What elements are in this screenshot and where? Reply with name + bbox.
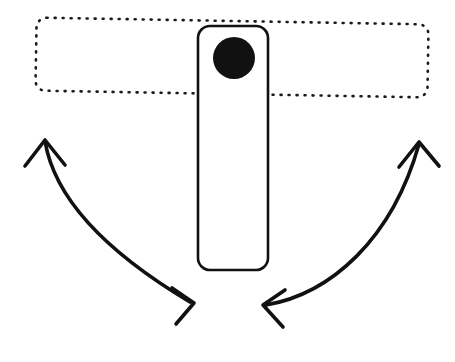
diagram-svg: Mechanical linkage motion diagram <box>0 0 455 362</box>
pivot-dot <box>213 37 255 79</box>
figure-canvas: Mechanical linkage motion diagram <box>0 0 455 362</box>
